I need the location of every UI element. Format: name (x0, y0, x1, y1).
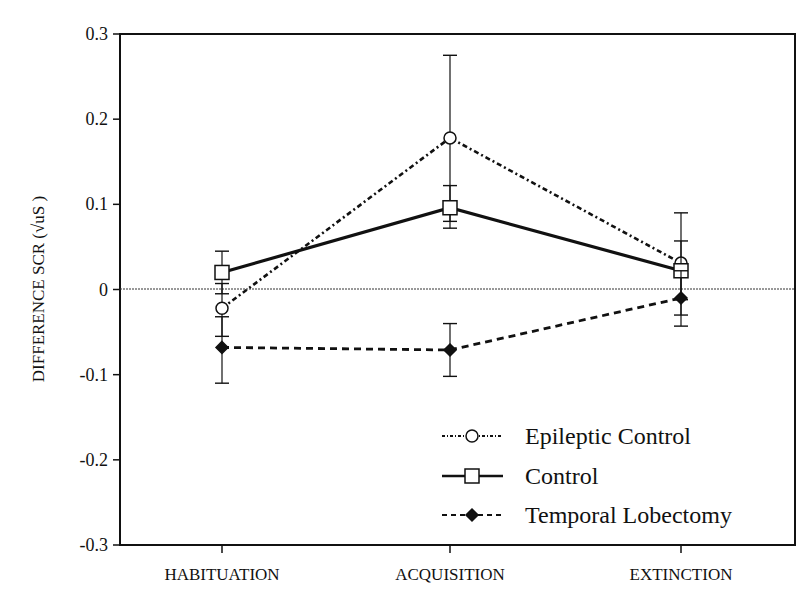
legend-label: Control (525, 463, 599, 489)
legend: Epileptic ControlControlTemporal Lobecto… (442, 423, 732, 528)
square-marker (465, 469, 479, 483)
y-tick-label: -0.3 (80, 535, 109, 555)
series-temporal-lobectomy (215, 271, 688, 383)
circle-marker (444, 132, 456, 144)
y-tick-label: 0 (99, 280, 108, 300)
circle-marker (216, 302, 228, 314)
y-axis: 0.30.20.10-0.1-0.2-0.3 (80, 24, 121, 555)
circle-marker (466, 430, 478, 442)
diamond-marker (466, 509, 478, 521)
legend-label: Epileptic Control (525, 423, 691, 449)
series-control (215, 186, 688, 300)
legend-item: Epileptic Control (442, 423, 691, 449)
x-axis: HABITUATIONACQUISITIONEXTINCTION (164, 545, 732, 584)
diamond-marker (216, 341, 228, 353)
legend-item: Temporal Lobectomy (442, 502, 732, 528)
series-epileptic-control (215, 55, 688, 336)
series-line (222, 208, 681, 273)
y-tick-label: -0.1 (80, 365, 109, 385)
legend-item: Control (442, 463, 599, 489)
x-tick-label: HABITUATION (164, 565, 279, 584)
series-line (222, 138, 681, 308)
x-tick-label: ACQUISITION (395, 565, 505, 584)
square-marker (443, 201, 457, 215)
chart: 0.30.20.10-0.1-0.2-0.3 HABITUATIONACQUIS… (0, 0, 807, 600)
y-tick-label: 0.3 (86, 24, 109, 44)
y-tick-label: 0.1 (86, 194, 109, 214)
diamond-marker (444, 344, 456, 356)
diamond-marker (675, 292, 687, 304)
y-axis-label: DIFFERENCE SCR (√uS ) (29, 196, 48, 382)
y-tick-label: -0.2 (80, 450, 109, 470)
legend-label: Temporal Lobectomy (525, 502, 732, 528)
x-tick-label: EXTINCTION (630, 565, 733, 584)
series-group (215, 55, 688, 383)
square-marker (215, 265, 229, 279)
y-tick-label: 0.2 (86, 109, 109, 129)
